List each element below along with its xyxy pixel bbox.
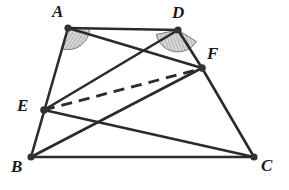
segment-EF-dashed bbox=[44, 69, 200, 110]
vertex-dot-B bbox=[27, 153, 34, 160]
vertex-label-C: C bbox=[261, 157, 272, 174]
vertex-dot-C bbox=[250, 153, 257, 160]
vertex-dot-E bbox=[40, 106, 48, 114]
geometry-figure: A D F E B C bbox=[0, 0, 289, 190]
vertex-label-D: D bbox=[172, 4, 184, 21]
vertex-label-F: F bbox=[207, 45, 218, 62]
vertex-dot-F bbox=[198, 64, 206, 72]
segment-AB bbox=[31, 28, 68, 157]
vertex-dot-D bbox=[174, 26, 181, 33]
vertex-label-B: B bbox=[11, 158, 22, 175]
vertex-label-E: E bbox=[17, 97, 28, 114]
figure-canvas bbox=[0, 0, 289, 190]
vertex-dot-A bbox=[64, 24, 71, 31]
vertex-label-A: A bbox=[52, 3, 63, 20]
segment-FC bbox=[202, 68, 254, 157]
